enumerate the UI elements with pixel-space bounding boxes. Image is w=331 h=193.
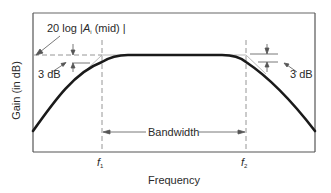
gain-response-curve [33,55,315,131]
x-axis-label: Frequency [148,175,200,186]
y-axis-label: Gain (in dB) [11,59,22,123]
midband-gain-label: 20 log |Ai (mid) | [47,23,126,35]
right-3db-label: 3 dB [290,69,313,80]
left-3db-label: 3 dB [38,69,61,80]
f2-label: f2 [241,157,247,169]
midband-gain-suffix: (mid) | [92,22,126,34]
midband-label-leader [36,36,60,55]
bandwidth-label: Bandwidth [148,127,199,138]
midband-gain-prefix: 20 log | [47,22,83,34]
f1-subscript: 1 [100,163,103,169]
f1-label: f1 [97,157,103,169]
f2-subscript: 2 [244,163,247,169]
